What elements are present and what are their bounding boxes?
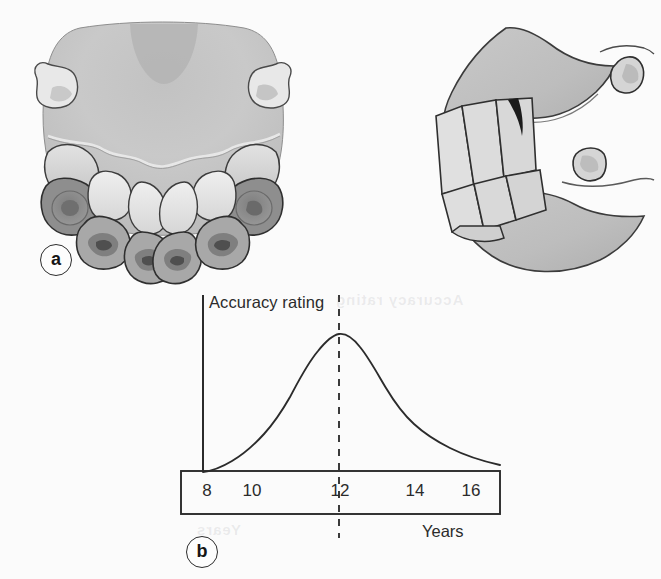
- x-axis-title: Years: [422, 522, 464, 541]
- x-tick-10: 10: [238, 481, 266, 501]
- panel-tag-a: a: [40, 244, 72, 276]
- y-axis-title: Accuracy rating: [209, 293, 324, 312]
- accuracy-rating-chart: Accuracy rating Years Accuracy rating 8 …: [150, 285, 550, 579]
- x-tick-14: 14: [401, 481, 429, 501]
- chart-svg: [150, 285, 550, 579]
- tooth-germ-lower-4: [452, 226, 504, 241]
- lower-gingiva-contour: [562, 179, 654, 187]
- accuracy-curve: [203, 334, 500, 472]
- panel-tag-b: b: [186, 536, 218, 568]
- x-tick-8: 8: [195, 481, 219, 501]
- lateral-jaw-svg: [400, 18, 655, 286]
- isolated-upper-follicle-line: [600, 46, 654, 54]
- figure-page: a: [0, 0, 661, 579]
- lateral-jaw-illustration: [400, 18, 655, 286]
- x-tick-12: 12: [326, 481, 354, 501]
- x-tick-16: 16: [457, 481, 485, 501]
- tooth-left-lateral-incisor: [88, 171, 131, 221]
- tooth-left-canine-core: [61, 200, 79, 216]
- occlusal-arch-illustration: a: [18, 14, 308, 286]
- tooth-right-lateral-incisor: [193, 171, 236, 221]
